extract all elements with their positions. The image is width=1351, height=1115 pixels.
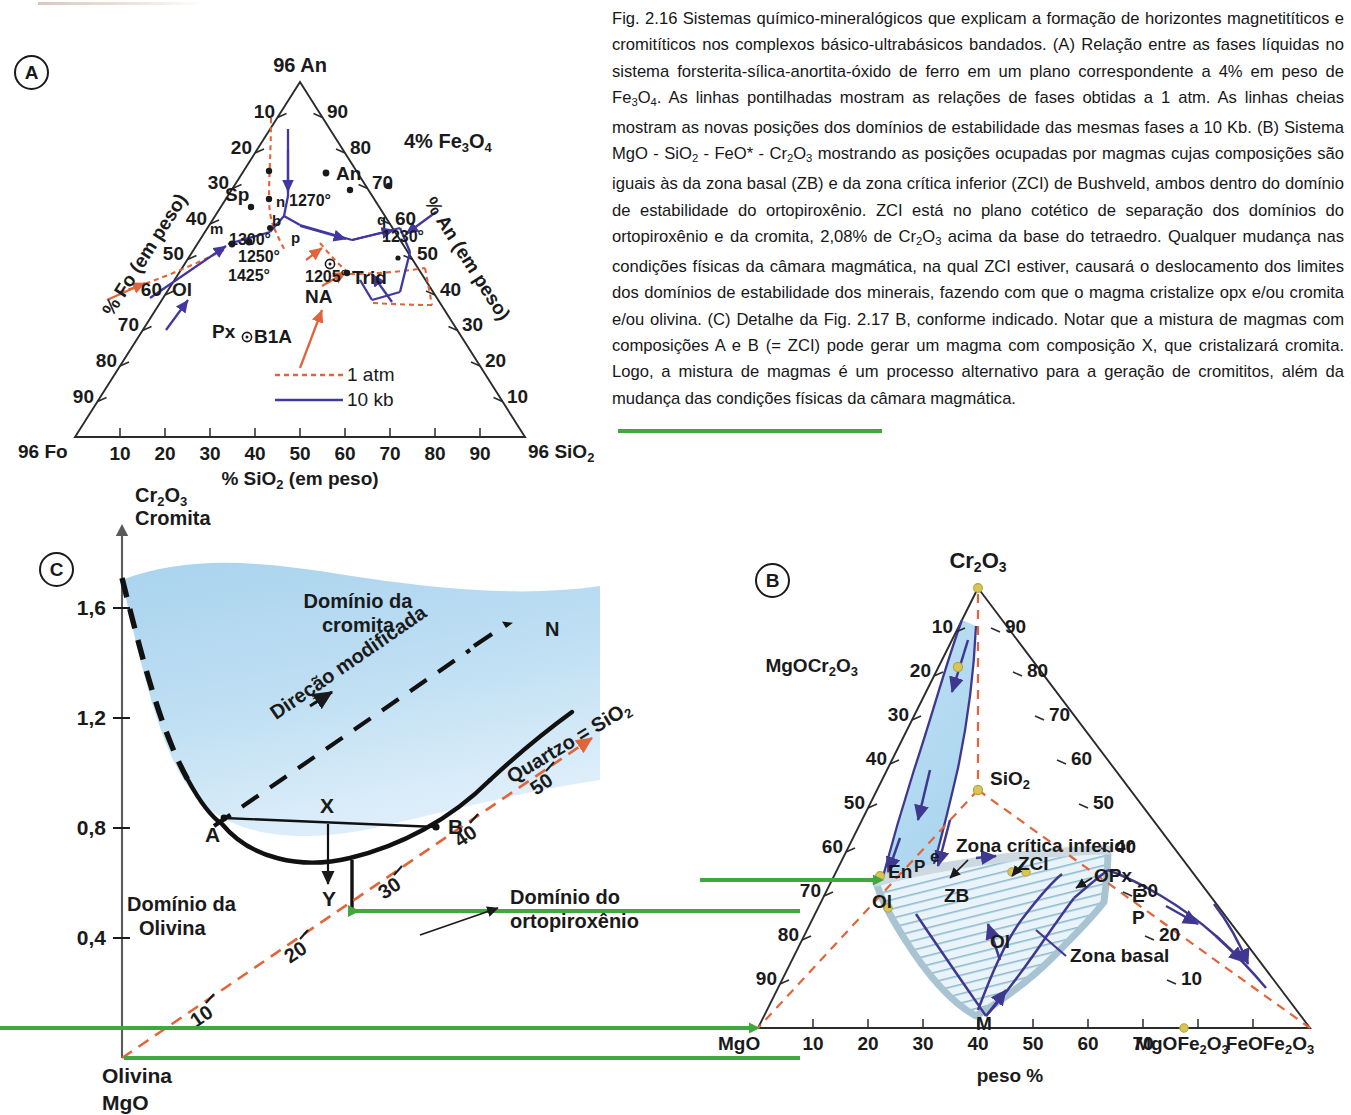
svg-text:10: 10 (802, 1033, 823, 1054)
panel-b-green-arrowhead-lower (749, 1022, 760, 1033)
svg-text:60: 60 (822, 836, 843, 857)
panel-b-apex-label: Cr2O3 (949, 548, 1006, 575)
panel-c-label-b: B (448, 815, 463, 838)
label-sp: Sp (225, 184, 249, 205)
panel-a-open-dot-core (329, 263, 332, 266)
panel-c-point-b (432, 823, 439, 830)
svg-text:20: 20 (857, 1033, 878, 1054)
label-1205: 1205° (305, 268, 347, 285)
panel-b-corner-left: MgO (718, 1033, 760, 1054)
svg-text:30: 30 (912, 1033, 933, 1054)
panel-c-diagram: 1,61,2 0,80,4 Cr2O3 Cromita Direção modi… (0, 480, 800, 1115)
panel-b-corner-right: FeOFe2O3 (1226, 1033, 1314, 1057)
panel-b-annotation-zb: Zona basal (1070, 945, 1169, 966)
panel-c-label-a: A (205, 823, 220, 846)
svg-text:40: 40 (244, 443, 265, 464)
svg-text:20: 20 (280, 937, 311, 968)
svg-text:10: 10 (932, 616, 953, 637)
panel-c-field-chromite-2: cromita (322, 614, 395, 636)
svg-text:60: 60 (395, 208, 416, 229)
panel-c-y-axis-label-1: Cr2O3 (135, 484, 187, 509)
panel-c-field-opx-1: Domínio do (510, 886, 620, 908)
panel-c-field-chromite-1: Domínio da (304, 590, 414, 612)
svg-text:20: 20 (154, 443, 175, 464)
svg-text:10: 10 (507, 386, 528, 407)
label-n: n (276, 193, 285, 210)
panel-b-label-m: M (976, 1013, 992, 1034)
label-px: Px (212, 321, 236, 342)
svg-text:90: 90 (327, 101, 348, 122)
panel-b-side-curve (1214, 904, 1248, 964)
panel-b-apex-dot (974, 584, 983, 593)
svg-text:20: 20 (910, 660, 931, 681)
label-1300: 1300° (229, 231, 271, 248)
panel-b-bottom-tick-labels: 102030 405060 70 (802, 1033, 1153, 1054)
panel-b-label-mgocr2o3: MgOCr2O3 (765, 655, 858, 679)
svg-text:60: 60 (1071, 748, 1092, 769)
svg-text:80: 80 (424, 443, 445, 464)
figure-caption: Fig. 2.16 Sistemas químico-mineralógicos… (612, 6, 1344, 412)
panel-c-label-y: Y (322, 887, 336, 910)
svg-text:10: 10 (109, 443, 130, 464)
svg-text:90: 90 (469, 443, 490, 464)
panel-b-label-p-upper: P (914, 857, 925, 876)
svg-text:40: 40 (866, 748, 887, 769)
svg-text:60: 60 (141, 279, 162, 300)
svg-text:70: 70 (372, 172, 393, 193)
panel-c-green-arrowhead-upper (348, 905, 360, 917)
legend-label-10kb: 10 kb (347, 389, 393, 410)
svg-text:50: 50 (844, 792, 865, 813)
label-1270: 1270° (289, 192, 331, 209)
panel-b-label-en: En (888, 861, 912, 882)
panel-c-field-opx-2: ortopiroxênio (510, 910, 639, 932)
panel-b-annotation-zci: Zona crítica inferior (956, 835, 1134, 856)
svg-text:50: 50 (289, 443, 310, 464)
svg-text:40: 40 (440, 279, 461, 300)
panel-a-corner-left: 96 Fo (18, 441, 68, 462)
svg-text:30: 30 (888, 704, 909, 725)
svg-text:60: 60 (1077, 1033, 1098, 1054)
panel-c-y-axis-label-2: Cromita (135, 507, 211, 529)
panel-a-open-dot-b1a-core (246, 336, 249, 339)
svg-text:70: 70 (1049, 704, 1070, 725)
legend-label-1atm: 1 atm (347, 364, 395, 385)
panel-a-corner-right: 96 SiO2 (528, 441, 594, 465)
panel-b-label-ol-center: Ol (990, 931, 1010, 952)
panel-a-diagram: 1 atm 10 kb 96 An 96 Fo 96 SiO2 4% Fe3O4… (0, 0, 600, 500)
label-an: An (336, 163, 361, 184)
svg-text:50: 50 (163, 243, 184, 264)
svg-text:20: 20 (1159, 924, 1180, 945)
panel-c-label-x: X (320, 794, 334, 817)
label-ol: Ol (172, 279, 192, 300)
panel-b-label-sio2: SiO2 (990, 768, 1030, 792)
panel-c-origin-label-1: Olivina (102, 1064, 172, 1087)
panel-b-axis-bottom-label: peso % (977, 1065, 1044, 1086)
panel-b-label-opx: OPx (1094, 865, 1132, 886)
svg-text:60: 60 (334, 443, 355, 464)
svg-text:10: 10 (1181, 968, 1202, 989)
svg-text:70: 70 (118, 314, 139, 335)
panel-a-bottom-tick-labels: 102030 405060 708090 (109, 443, 490, 464)
svg-text:50: 50 (417, 243, 438, 264)
svg-text:30: 30 (374, 873, 405, 904)
panel-c-origin-label-2: MgO (102, 1091, 149, 1114)
panel-a-bottom-ticks (120, 428, 480, 437)
panel-b-label-e-cap: E (1132, 885, 1145, 906)
label-1230: 1230° (382, 228, 424, 245)
panel-c-field-olivine-2: Olivina (139, 917, 207, 939)
panel-a-apex-label: 96 An (273, 54, 327, 76)
svg-text:1,2: 1,2 (77, 706, 106, 729)
svg-text:10: 10 (254, 101, 275, 122)
svg-text:30: 30 (199, 443, 220, 464)
label-1250: 1250° (238, 248, 280, 265)
panel-c-y-axis-arrow (116, 524, 128, 536)
panel-b-bottom-named-tick-1: MgOFe2O3 (1135, 1033, 1229, 1057)
svg-text:80: 80 (96, 350, 117, 371)
label-b: b (272, 212, 281, 229)
svg-text:80: 80 (778, 924, 799, 945)
svg-text:90: 90 (73, 386, 94, 407)
panel-b-label-e: e (930, 847, 939, 866)
panel-a-plane-note: 4% Fe3O4 (404, 130, 493, 155)
panel-b-label-zb: ZB (944, 885, 969, 906)
svg-text:0,4: 0,4 (77, 926, 107, 949)
